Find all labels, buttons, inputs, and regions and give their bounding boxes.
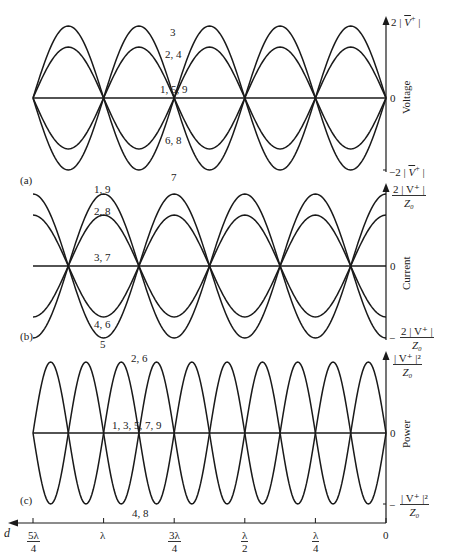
curve-label-6-8: 6, 8	[165, 135, 182, 146]
curve-label-2-6: 2, 6	[131, 353, 148, 364]
voltage-axis-arrow-icon	[383, 16, 390, 25]
tick-3lambda-4: 3λ4	[168, 529, 181, 554]
power-axis-arrow-icon	[383, 351, 390, 360]
voltage-max-label: 2 | V+ |	[391, 13, 420, 28]
current-zero-label: 0	[390, 261, 396, 272]
power-min-sign: −	[389, 500, 395, 511]
panel-a-tag: (a)	[20, 174, 32, 186]
power-axis-label: Power	[400, 420, 412, 448]
current-max-label: 2 | V⁺ |Z₀	[392, 183, 426, 209]
voltage-zero-label: 0	[390, 93, 396, 104]
voltage-axis-label: Voltage	[400, 81, 412, 114]
curve-label-4-8: 4, 8	[132, 508, 149, 519]
power-min-label: | V⁺ |²Z₀	[400, 492, 429, 518]
tick-zero: 0	[383, 529, 389, 541]
tick-lambda-4: λ4	[312, 529, 319, 554]
curve-label-3: 3	[170, 27, 176, 38]
current-axis-arrow-icon	[383, 183, 390, 192]
d-axis-label: d	[4, 528, 10, 539]
curve-label-1-3-5-7-9: 1, 3, 5, 7, 9	[112, 420, 162, 431]
standing-wave-figure	[0, 0, 453, 560]
curve-label-1-9: 1, 9	[94, 184, 111, 195]
tick-lambda-2: λ2	[241, 529, 248, 554]
curve-label-3-7: 3, 7	[94, 252, 111, 263]
d-axis-ticks	[33, 518, 386, 523]
curve-label-5: 5	[100, 339, 106, 350]
tick-lambda: λ	[100, 529, 105, 541]
voltage-min-label: −2 | V+ |	[389, 163, 425, 178]
curve-label-4-6: 4, 6	[94, 319, 111, 330]
power-zero-label: 0	[390, 428, 396, 439]
panel-b-tag: (b)	[20, 330, 33, 342]
current-axis-label: Current	[400, 256, 412, 290]
curve-label-2-4: 2, 4	[165, 49, 182, 60]
current-min-label: 2 | V⁺ |Z₀	[400, 325, 434, 351]
current-min-sign: −	[389, 333, 395, 344]
curve-label-1-5-9: 1, 5, 9	[160, 84, 188, 95]
power-max-label: | V⁺ |²Z₀	[393, 352, 422, 378]
tick-5lambda-4: 5λ4	[27, 529, 40, 554]
panel-c-tag: (c)	[20, 494, 32, 506]
curve-label-7: 7	[171, 172, 177, 183]
curve-label-2-8: 2, 8	[94, 206, 111, 217]
